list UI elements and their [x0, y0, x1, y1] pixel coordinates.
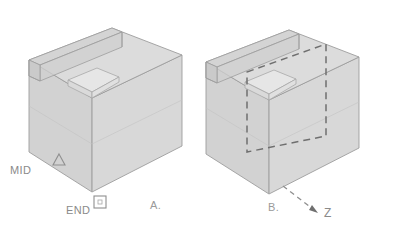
panel-b-label: B.: [268, 201, 279, 213]
panel-b-group: Z B.: [206, 30, 359, 220]
z-axis-arrow-line: [283, 186, 314, 210]
end-marker-inner: [98, 200, 102, 204]
figure-root: MID END A.: [0, 0, 397, 239]
end-marker-label: END: [66, 204, 90, 216]
diagram-canvas: MID END A.: [0, 0, 397, 239]
z-axis-label: Z: [324, 206, 332, 220]
panel-a-label: A.: [150, 199, 161, 211]
z-axis-arrow-head: [309, 205, 318, 213]
mid-marker-label: MID: [10, 164, 31, 176]
end-marker-icon[interactable]: [94, 196, 106, 208]
panel-a-group: MID END A.: [10, 28, 182, 216]
